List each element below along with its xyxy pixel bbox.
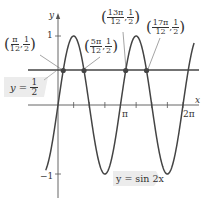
x-tick-label-pi: π [122, 110, 128, 119]
y-axis-arrow-icon [56, 13, 60, 19]
point-label-2: ( 5π12, 12 ) [84, 38, 118, 55]
line-label: y = 12 [10, 78, 38, 97]
y-tick-label-neg1: −1 [40, 172, 53, 181]
leader-line-3 [123, 32, 126, 69]
curve-label: y = sin 2x [116, 174, 164, 184]
point-label-3: ( 13π12, 12 ) [101, 9, 140, 26]
leader-line-line-label [44, 71, 56, 80]
y-axis-label: y [49, 11, 54, 20]
point-label-1: ( π12, 12 ) [4, 36, 36, 53]
y-tick-label-1: 1 [47, 31, 53, 40]
x-axis-label: x [195, 96, 200, 105]
point-label-4: ( 17π12, 12 ) [146, 19, 185, 36]
leader-line-4 [148, 38, 160, 69]
leader-line-2 [84, 57, 100, 69]
x-tick-label-2pi: 2π [183, 110, 195, 119]
